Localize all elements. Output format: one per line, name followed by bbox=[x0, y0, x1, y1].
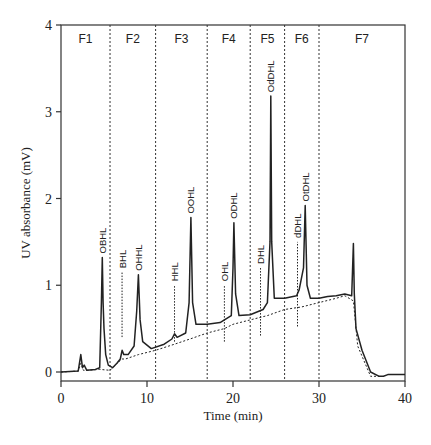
fraction-label-f7: F7 bbox=[355, 32, 369, 46]
chromatogram-chart: F1F2F3F4F5F6F7 OBHLBHLOHHLHHLOOHLOHLODHL… bbox=[0, 0, 431, 445]
peak-label-otdhl: OtDHL bbox=[300, 172, 311, 201]
peak-label-ddhl: dDHL bbox=[292, 214, 303, 238]
x-tick-label: 40 bbox=[398, 391, 412, 406]
solid-trace bbox=[61, 96, 405, 376]
y-axis-title: UV absorbance (mV) bbox=[18, 147, 33, 259]
x-tick-label: 10 bbox=[140, 391, 154, 406]
y-tick-label: 4 bbox=[45, 18, 52, 33]
fraction-label-f1: F1 bbox=[79, 32, 93, 46]
peak-label-oohl: OOHL bbox=[185, 187, 196, 214]
fraction-label-f4: F4 bbox=[222, 32, 236, 46]
peak-label-odhl: ODHL bbox=[228, 192, 239, 218]
fraction-label-f6: F6 bbox=[295, 32, 309, 46]
y-tick-label: 1 bbox=[45, 278, 52, 293]
peak-label-bhl: BHL bbox=[117, 250, 128, 268]
peak-label-dhl: DHL bbox=[255, 245, 266, 264]
peak-label-ohl: OHL bbox=[219, 262, 230, 282]
peak-label-hhl: HHL bbox=[169, 262, 180, 281]
fraction-label-f5: F5 bbox=[260, 32, 274, 46]
fraction-label-f3: F3 bbox=[174, 32, 188, 46]
peak-label-obhl: OBHL bbox=[97, 228, 108, 254]
fraction-labels: F1F2F3F4F5F6F7 bbox=[79, 32, 370, 46]
peak-label-ohhl: OHHL bbox=[133, 244, 144, 270]
x-axis-title: Time (min) bbox=[203, 408, 262, 423]
fraction-label-f2: F2 bbox=[126, 32, 140, 46]
chromatogram-traces bbox=[61, 96, 405, 376]
y-tick-label: 3 bbox=[45, 105, 52, 120]
y-tick-label: 0 bbox=[45, 365, 52, 380]
y-tick-label: 2 bbox=[45, 192, 52, 207]
x-tick-label: 30 bbox=[312, 391, 326, 406]
x-tick-label: 0 bbox=[58, 391, 65, 406]
x-tick-label: 20 bbox=[226, 391, 240, 406]
peak-labels: OBHLBHLOHHLHHLOOHLOHLODHLDHLOdDHLdDHLOtD… bbox=[97, 60, 311, 341]
peak-label-oddhl: OdDHL bbox=[265, 60, 276, 92]
